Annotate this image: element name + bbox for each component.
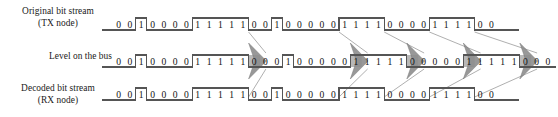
bit-cell: 1 [215,56,226,67]
bit-cell: 0 [124,89,135,100]
bit-cell: 1 [237,19,248,30]
bit-cell: 0 [328,56,339,67]
bit-cell: 1 [136,56,147,67]
bit-cell: 1 [282,56,293,67]
bit-cell: 1 [237,89,248,100]
bit-cell: 0 [328,19,339,30]
bit-cell: 0 [282,89,293,100]
bit-cell: 1 [271,19,282,30]
bit-cell: 1 [384,56,395,67]
bit-values-decoded-bit-stream: 0010000111110010000011110000111100 [113,89,497,102]
bit-cell: 1 [395,56,406,67]
bit-cell: 0 [418,56,429,67]
bit-cell: 0 [249,89,260,100]
bit-cell: 1 [362,89,373,100]
bit-cell: 1 [373,19,384,30]
bit-cell: 1 [486,56,497,67]
bit-cell: 1 [192,89,203,100]
bit-cell: 0 [260,19,271,30]
bit-stuffing-diagram: Original bit stream (TX node) Level on t… [0,0,558,117]
bit-cell: 0 [294,89,305,100]
bit-cell: 1 [441,19,452,30]
bit-cell: 0 [339,56,350,67]
bit-cell: 1 [215,89,226,100]
bit-cell: 1 [350,56,361,67]
bit-cell: 0 [452,56,463,67]
bit-cell: 0 [407,19,418,30]
bit-cell: 1 [215,19,226,30]
bit-cell: 0 [124,19,135,30]
bit-cell: 0 [158,19,169,30]
bit-cell: 1 [463,89,474,100]
bit-cell: 1 [497,56,508,67]
bit-cell: 1 [237,56,248,67]
bit-cell: 0 [282,19,293,30]
bit-cell: 0 [395,19,406,30]
bit-cell: 1 [508,56,519,67]
bit-cell: 1 [452,19,463,30]
bit-cell: 1 [429,19,440,30]
bit-cell: 1 [203,89,214,100]
bit-cell: 1 [339,89,350,100]
bit-cell: 1 [226,19,237,30]
bit-cell: 1 [429,89,440,100]
bit-cell: 1 [350,89,361,100]
bit-cell: 0 [407,89,418,100]
bit-cell: 0 [316,19,327,30]
bit-cell: 0 [441,56,452,67]
bit-cell: 1 [226,89,237,100]
bit-cell: 0 [181,19,192,30]
bit-cell: 0 [181,56,192,67]
bit-cell: 1 [203,56,214,67]
bit-cell: 0 [486,89,497,100]
bit-cell: 0 [113,56,124,67]
bit-cell: 0 [294,56,305,67]
bit-cell: 0 [486,19,497,30]
bit-cell: 0 [169,56,180,67]
bit-cell: 0 [384,19,395,30]
bit-cell: 1 [441,89,452,100]
bit-cell: 0 [113,19,124,30]
bit-cell: 0 [531,56,542,67]
bit-cell: 1 [226,56,237,67]
bit-cell: 0 [147,19,158,30]
bit-cell: 0 [384,89,395,100]
bit-cell: 0 [542,56,553,67]
bit-cell: 0 [395,89,406,100]
bit-cell: 0 [169,19,180,30]
bit-cell: 0 [475,89,486,100]
bit-cell: 0 [305,56,316,67]
bit-cell: 1 [339,19,350,30]
bit-cell: 1 [350,19,361,30]
bit-cell: 1 [271,89,282,100]
bit-cell: 0 [407,56,418,67]
bit-cell: 0 [271,56,282,67]
bit-cell: 1 [373,89,384,100]
bit-cell: 0 [181,89,192,100]
bit-cell: 1 [475,56,486,67]
bit-cell: 0 [429,56,440,67]
bit-cell: 1 [136,89,147,100]
bit-cell: 0 [260,56,271,67]
bit-cell: 0 [418,89,429,100]
bit-cell: 0 [249,56,260,67]
bit-cell: 0 [305,19,316,30]
bit-cell: 0 [260,89,271,100]
bit-cell: 0 [169,89,180,100]
bit-cell: 1 [373,56,384,67]
bit-cell: 0 [294,19,305,30]
bit-cell: 0 [158,89,169,100]
bit-cell: 0 [328,89,339,100]
bit-cell: 1 [362,56,373,67]
bit-cell: 0 [475,19,486,30]
bit-cell: 0 [147,56,158,67]
bit-cell: 1 [463,19,474,30]
bit-cell: 0 [158,56,169,67]
bit-cell: 0 [316,89,327,100]
bit-cell: 0 [249,19,260,30]
bit-cell: 0 [124,56,135,67]
bit-cell: 0 [316,56,327,67]
bit-cell: 0 [113,89,124,100]
bit-cell: 1 [136,19,147,30]
bit-cell: 1 [192,19,203,30]
